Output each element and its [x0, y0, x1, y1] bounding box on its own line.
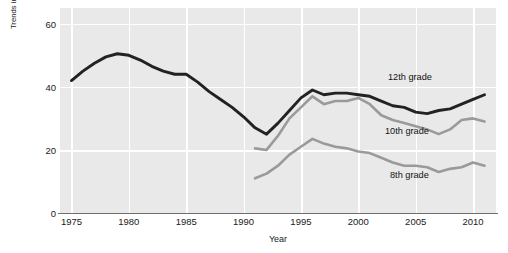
- x-tick-label: 1995: [290, 216, 311, 227]
- x-tick-label: 1975: [61, 216, 82, 227]
- plot-area: [60, 8, 496, 213]
- y-tick-label: 0: [4, 208, 56, 219]
- x-tick-label: 1985: [176, 216, 197, 227]
- y-tick-label: 40: [4, 81, 56, 92]
- x-tick-label: 2005: [405, 216, 426, 227]
- x-tick-label: 1980: [118, 216, 139, 227]
- x-axis-title: Year: [60, 234, 496, 244]
- series-line-10th-grade: [255, 96, 484, 150]
- y-tick-label: 20: [4, 144, 56, 155]
- series-label-10th-grade: 10th grade: [385, 126, 429, 136]
- series-label-8th-grade: 8th grade: [390, 170, 429, 180]
- series-label-12th-grade: 12th grade: [388, 72, 432, 82]
- x-tick-label: 1990: [233, 216, 254, 227]
- series-line-12th-grade: [71, 54, 484, 134]
- x-tick-label: 2010: [462, 216, 483, 227]
- x-tick-label: 2000: [348, 216, 369, 227]
- chart-root: Trends in the percent of U.S. adolescent…: [0, 0, 508, 253]
- y-tick-label: 60: [4, 18, 56, 29]
- x-axis-line: [58, 213, 498, 214]
- y-axis-ticks: 0204060: [0, 8, 56, 213]
- series-lines: [60, 8, 496, 213]
- series-line-8th-grade: [255, 139, 484, 178]
